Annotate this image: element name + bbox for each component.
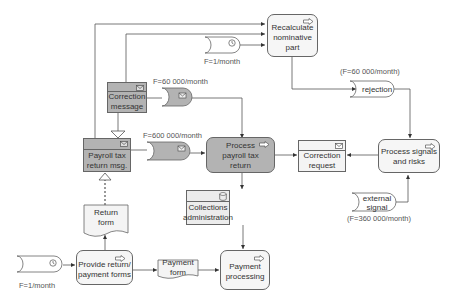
datastore-collections-administration[interactable]: Collections administration [186,190,230,225]
message-header [108,83,146,92]
timer-event-top-frequency: F=1/month [204,57,240,66]
datastore-label: Collections administration [183,203,233,223]
process-label: Provide return/ payment forms [78,260,132,280]
message-label: Correction message [109,92,146,112]
process-label: Recalculate nominative part [271,23,315,53]
arrow-right-icon [254,255,265,262]
rejection-event-frequency: (F=60 000/month) [340,67,400,76]
process-recalculate-nominative-part[interactable]: Recalculate nominative part [267,14,318,57]
message-label: Correction request [301,151,343,171]
process-label: Payment processing [223,262,267,282]
document-label: Payment form [161,258,195,278]
message-event-600k-frequency: F=600 000/month [143,131,202,140]
timer-event-bottom-frequency: F=1/month [19,281,55,290]
envelope-icon [136,85,144,91]
arrow-right-icon [303,18,314,25]
envelope-icon [335,143,343,149]
process-label: Process signals and risks [380,147,438,167]
process-provide-return-payment-forms[interactable]: Provide return/ payment forms [76,250,133,285]
arrow-right-icon [425,143,436,150]
message-correction-request[interactable]: Correction request [298,140,346,172]
message-label: Payroll tax return msg. [86,151,128,171]
document-payment-form[interactable]: Payment form [158,259,198,276]
database-icon [219,192,227,201]
message-event-60k-frequency: F=60 000/month [153,77,208,86]
message-correction-message[interactable]: Correction message [107,82,147,113]
external-signal-event-label[interactable]: external signal [362,194,392,212]
datastore-header [187,191,229,202]
arrow-right-icon [115,255,126,262]
arrow-right-icon [259,141,270,148]
message-payroll-tax-return[interactable]: Payroll tax return msg. [83,138,131,172]
process-signals-and-risks[interactable]: Process signals and risks [378,139,440,173]
document-label: Return form [91,208,121,228]
message-header [84,139,130,150]
external-signal-frequency: (F=360 000/month) [347,214,411,223]
process-payroll-tax-return[interactable]: Process payroll tax return [206,137,275,173]
envelope-icon [120,141,128,147]
rejection-event-label[interactable]: rejection [362,85,392,94]
message-header [299,141,345,151]
document-return-form[interactable]: Return form [84,205,128,231]
process-payment-processing[interactable]: Payment processing [220,250,270,290]
